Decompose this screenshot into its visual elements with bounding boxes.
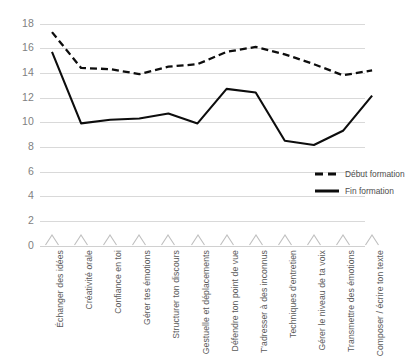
series-line-2 — [52, 52, 372, 145]
y-tick-label: 18 — [8, 18, 34, 28]
y-tick-label: 12 — [8, 92, 34, 102]
chevron-up-icon — [73, 231, 89, 247]
y-tick-label: 2 — [8, 215, 34, 225]
chevron-up-icon — [364, 231, 380, 247]
x-axis-tick-marks — [40, 229, 365, 247]
series-line-1 — [52, 32, 372, 75]
chevron-up-icon — [277, 231, 293, 247]
y-tick-label: 16 — [8, 42, 34, 52]
x-axis-label: Gestuelle et déplacements — [202, 250, 211, 354]
x-axis-label: T'adresser à des inconnus — [260, 250, 269, 353]
y-tick-label: 8 — [8, 141, 34, 151]
dashed-line-icon — [315, 168, 339, 180]
chevron-up-icon — [160, 231, 176, 247]
x-axis-label: Structurer ton discours — [172, 250, 181, 339]
chevron-up-icon — [131, 231, 147, 247]
y-tick-label: 6 — [8, 166, 34, 176]
x-axis-label: Créativité orale — [85, 250, 94, 309]
chevron-up-icon — [102, 231, 118, 247]
x-axis-label: Transmettre des émotions — [347, 250, 356, 352]
chart-legend: Début formationFin formation — [315, 168, 407, 200]
y-tick-label: 4 — [8, 190, 34, 200]
y-tick-label: 14 — [8, 67, 34, 77]
solid-line-icon — [315, 185, 339, 197]
x-axis-label: Défendre ton point de vue — [231, 250, 240, 351]
x-axis-category-labels: Échanger des idéesCréativité oraleConfia… — [40, 248, 365, 362]
y-tick-label: 10 — [8, 116, 34, 126]
x-axis-label: Confiance en toi — [114, 250, 123, 314]
legend-label: Début formation — [345, 169, 405, 179]
y-axis-tick-labels: 024681012141618 — [8, 0, 34, 362]
y-tick-label: 0 — [8, 240, 34, 250]
x-axis-label: Composer / écrire ton texte — [376, 250, 385, 356]
x-axis-label: Gérer le niveau de ta voix — [318, 250, 327, 351]
chevron-up-icon — [190, 231, 206, 247]
legend-label: Fin formation — [345, 186, 394, 196]
x-axis-label: Techniques d'entretien — [289, 250, 298, 338]
chevron-up-icon — [248, 231, 264, 247]
x-axis-label: Échanger des idées — [56, 250, 65, 328]
chevron-up-icon — [219, 231, 235, 247]
chevron-up-icon — [335, 231, 351, 247]
chevron-up-icon — [306, 231, 322, 247]
x-axis-label: Gérer tes émotions — [143, 250, 152, 325]
legend-item[interactable]: Fin formation — [315, 185, 394, 197]
chevron-up-icon — [44, 231, 60, 247]
line-chart: 024681012141618 Échanger des idéesCréati… — [0, 0, 407, 362]
legend-item[interactable]: Début formation — [315, 168, 405, 180]
